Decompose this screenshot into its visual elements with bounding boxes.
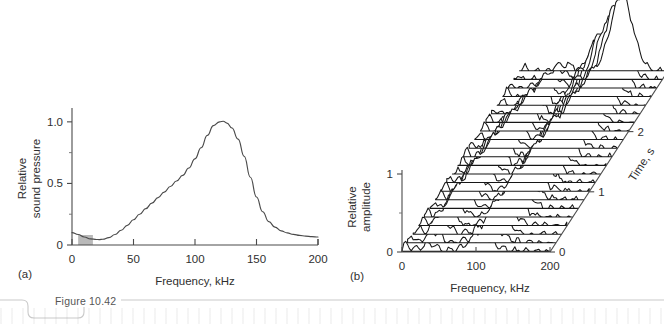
panel-a-x-tick-label: 150	[247, 253, 266, 265]
panel-a-y-axis-title-line2: sound pressure	[30, 139, 42, 218]
panel-a-chart: 00.51.0050100150200 Frequency, kHz Relat…	[0, 0, 332, 292]
panel-b-x-tick-label: 0	[399, 260, 405, 272]
panel-b-x-tick-label: 200	[540, 260, 559, 272]
panel-b-y-tick-label: 1	[387, 168, 393, 180]
panel-b-x-tick-label: 100	[466, 260, 485, 272]
panel-b-y-axis-title-line1: Relative	[346, 186, 358, 228]
panel-a-x-tick-label: 50	[127, 253, 140, 265]
panel-b-time-axis-title: Time, s	[626, 145, 656, 183]
panel-b-y-axis-title-line2: amplitude	[360, 182, 372, 232]
panel-a-x-axis-title: Frequency, kHz	[155, 275, 235, 287]
panel-b-time-tick-label: 0	[559, 246, 565, 258]
panel-b-letter: (b)	[350, 270, 364, 282]
origin-highlight-band	[78, 235, 93, 245]
panel-a-y-tick-label: 1.0	[47, 116, 63, 128]
figure-sheet: 00.51.0050100150200 Frequency, kHz Relat…	[0, 0, 664, 324]
panel-a-svg: 00.51.0050100150200 Frequency, kHz Relat…	[0, 0, 332, 292]
scan-artifact-band	[0, 308, 664, 324]
panel-a-x-tick-label: 200	[308, 253, 327, 265]
panel-a-x-tick-label: 0	[69, 253, 75, 265]
panel-a-x-tick-label: 100	[185, 253, 204, 265]
panel-b-chart: 0101002000123 Frequency, kHz Relative am…	[330, 0, 664, 292]
panel-b-svg: 0101002000123 Frequency, kHz Relative am…	[330, 0, 664, 292]
panel-b-time-tick-label: 2	[637, 126, 643, 138]
panel-a-y-axis-title-line1: Relative	[16, 158, 28, 200]
figure-number-label: Figure 10.42	[50, 295, 121, 307]
waterfall-traces	[402, 0, 664, 251]
sound-pressure-curve	[72, 121, 318, 239]
panel-b-time-tick-label: 1	[598, 186, 604, 198]
panel-a-y-tick-label: 0	[57, 239, 63, 251]
panel-a-letter: (a)	[18, 268, 32, 280]
panel-b-y-tick-label: 0	[387, 246, 393, 258]
panel-a-y-tick-label: 0.5	[47, 177, 63, 189]
